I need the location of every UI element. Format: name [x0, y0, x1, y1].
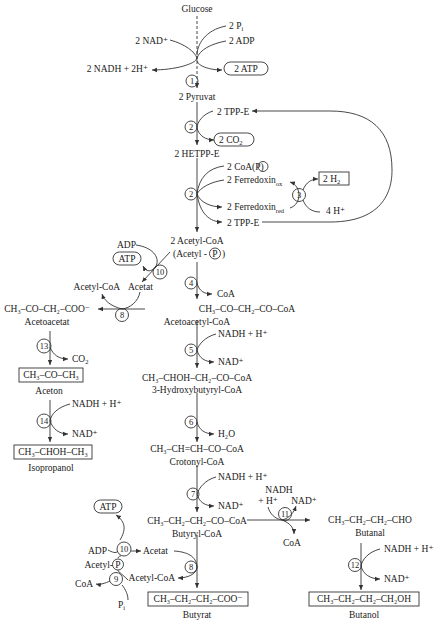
node-aceton-formula: CH₃–CO–CH₃	[23, 370, 79, 380]
node-acetyl-phosphate-9: Acetyl-	[85, 560, 114, 570]
svg-text:3: 3	[297, 190, 301, 200]
svg-text:9: 9	[114, 574, 118, 584]
node-butyryl-formula: CH₃–CH₂–CH₂–CO–CoA	[147, 516, 247, 526]
cofactor-nad-5: NAD⁺	[218, 357, 244, 367]
cofactor-acetylcoa-8b: Acetyl-CoA	[129, 573, 176, 583]
svg-text:10: 10	[156, 267, 165, 277]
cofactor-adp: 2 ADP	[229, 36, 255, 46]
node-pyruvat: 2 Pyruvat	[179, 92, 216, 102]
svg-text:7: 7	[191, 489, 195, 499]
node-aceton: Aceton	[35, 386, 63, 396]
node-butanal-formula: CH₃–CH₂–CH₂–CHO	[328, 515, 412, 525]
node-acetoacetat: Acetoacetat	[25, 317, 70, 327]
product-atp-10b: ATP	[100, 502, 117, 512]
node-acetylcoa: 2 Acetyl-CoA	[170, 236, 223, 246]
cofactor-nad-11: NAD⁺	[291, 496, 317, 506]
cofactor-nadh-5: NADH + H⁺	[218, 329, 267, 339]
svg-text:4: 4	[189, 278, 194, 288]
node-hydroxybutyryl: 3-Hydroxybutyryl-CoA	[152, 385, 242, 395]
cofactor-h-11: + H⁺	[258, 496, 278, 506]
svg-text:8: 8	[189, 562, 193, 572]
node-isopropanol-formula: CH₃–CHOH–CH₃	[18, 447, 87, 457]
cofactor-acetat-8b: Acetat	[143, 546, 168, 556]
cofactor-nad: 2 NAD⁺	[135, 36, 168, 46]
node-butyrat-formula: CH₃–CH₂–CH₂–COO⁻	[154, 594, 243, 604]
svg-text:10: 10	[120, 544, 129, 554]
node-isopropanol: Isopropanol	[28, 463, 74, 473]
product-co2: 2 CO2	[219, 135, 243, 146]
cofactor-tppe-in: 2 TPP-E	[217, 107, 249, 117]
cofactor-nadh: 2 NADH + 2H⁺	[87, 64, 148, 74]
node-butanal: Butanal	[355, 528, 385, 538]
node-crotonyl: Crotonyl-CoA	[170, 457, 225, 467]
node-acetoacetat-formula: CH₃–CO–CH₂–COO⁻	[4, 304, 90, 314]
cofactor-coa-4: CoA	[217, 289, 235, 299]
cofactor-pi-9: Pi	[118, 600, 125, 611]
cofactor-4h: 4 H⁺	[326, 206, 345, 216]
svg-text:): )	[222, 249, 225, 260]
cofactor-nad-12: NAD⁺	[384, 574, 410, 584]
cofactor-nadh-14: NADH + H⁺	[72, 399, 121, 409]
node-butyryl: Butyryl-CoA	[172, 529, 222, 539]
cofactor-adp-10b: ADP	[88, 546, 107, 556]
svg-text:8: 8	[120, 310, 124, 320]
node-acetoacetylcoa: Acetoacetyl-CoA	[164, 317, 231, 327]
svg-text:11: 11	[281, 509, 289, 519]
node-hydroxybutyryl-formula: CH₃–CHOH–CH₂–CO–CoA	[142, 373, 252, 383]
product-h2: 2 H2	[323, 174, 340, 185]
node-hetppe: 2 HETPP-E	[174, 149, 219, 159]
node-acetyl-phosphate: (Acetyl -	[173, 249, 207, 260]
cofactor-coa-11: CoA	[283, 538, 301, 548]
cofactor-coa-9: CoA	[75, 579, 93, 589]
cofactor-ferredoxin-red: 2 Ferredoxinred	[227, 202, 285, 214]
pathway-canvas: Glucose 2 Pi 2 ADP 2 NAD⁺ 2 NADH + 2H⁺ 2…	[0, 0, 435, 627]
node-crotonyl-formula: CH₃–CH=CH–CO–CoA	[150, 444, 244, 454]
svg-text:P: P	[212, 249, 217, 259]
svg-text:5: 5	[189, 345, 193, 355]
svg-text:12: 12	[351, 560, 360, 570]
cofactor-adp-10a: ADP	[117, 240, 136, 250]
cofactor-pi: 2 Pi	[229, 21, 243, 32]
node-acetoacetylcoa-formula: CH₃–CO–CH₂–CO–CoA	[199, 304, 295, 314]
cofactor-tppe-out: 2 TPP-E	[227, 218, 259, 228]
svg-text:P: P	[115, 560, 120, 570]
node-butyrat: Butyrat	[183, 610, 212, 620]
node-butanol-formula: CH₃–CH₂–CH₂–CH₂OH	[317, 594, 411, 604]
svg-text:2: 2	[189, 189, 193, 199]
svg-text:2: 2	[189, 122, 193, 132]
cofactor-nadh-11: NADH	[265, 485, 293, 495]
cofactor-ferredoxin-ox: 2 Ferredoxinox	[227, 175, 283, 187]
cofactor-nadh-7: NADH + H⁺	[218, 472, 267, 482]
node-butanol: Butanol	[349, 610, 379, 620]
svg-text:13: 13	[40, 341, 49, 351]
pathway-diagram: Glucose 2 Pi 2 ADP 2 NAD⁺ 2 NADH + 2H⁺ 2…	[0, 0, 435, 627]
product-atp-10a: ATP	[119, 254, 136, 264]
product-atp: 2 ATP	[234, 64, 258, 74]
cofactor-nad-7: NAD⁺	[218, 501, 244, 511]
cofactor-co2-13: CO2	[72, 354, 88, 365]
node-glucose: Glucose	[181, 4, 212, 14]
cofactor-h2o-6: H₂O	[218, 429, 235, 439]
cofactor-acetylcoa-8a: Acetyl-CoA	[74, 282, 121, 292]
cofactor-acetat-8a: Acetat	[128, 282, 153, 292]
svg-text:1: 1	[190, 76, 194, 86]
cofactor-nadh-12: NADH + H⁺	[384, 544, 433, 554]
svg-text:14: 14	[40, 416, 49, 426]
cofactor-nad-14: NAD⁺	[72, 429, 98, 439]
svg-text:6: 6	[189, 417, 193, 427]
